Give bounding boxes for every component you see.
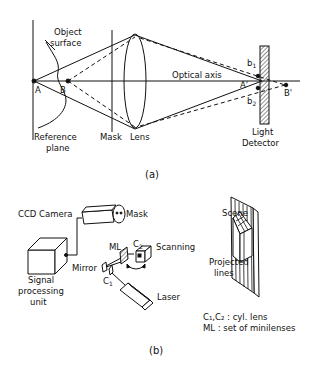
legend-minilenses: ML : set of minilenses (203, 323, 296, 333)
label-ml: ML (109, 242, 121, 252)
label-optical-axis: Optical axis (172, 70, 222, 80)
label-unit: unit (30, 297, 47, 307)
label-lines: lines (214, 268, 234, 278)
label-mask-b: Mask (126, 209, 148, 219)
label-ccd-camera: CCD Camera (18, 209, 72, 219)
label-surface: surface (50, 38, 81, 48)
label-b2: b2 (247, 96, 256, 107)
point-a (32, 79, 36, 83)
caption-b: (b) (149, 345, 163, 356)
label-point-b: B (60, 85, 66, 95)
point-b2 (256, 86, 260, 90)
point-b-prime (284, 83, 288, 87)
label-plane: plane (46, 143, 70, 153)
label-scene: Scene (222, 208, 248, 218)
label-scanning: Scanning (156, 242, 195, 252)
caption-a: (a) (145, 169, 159, 180)
camera-cable (66, 218, 82, 255)
label-object: Object (54, 27, 82, 37)
label-detector: Detector (242, 138, 280, 148)
label-point-a: A (35, 85, 41, 95)
optical-diagram: Object surface A B Reference plane Mask … (0, 0, 319, 376)
label-mask: Mask (100, 132, 122, 142)
label-laser: Laser (157, 292, 181, 302)
label-c2: C2 (133, 239, 143, 250)
label-projected: Projected (209, 257, 249, 267)
label-lens: Lens (130, 132, 150, 142)
label-point-a-prime: A' (240, 80, 248, 90)
legend-cyl-lens: C₁,C₂ : cyl. lens (203, 312, 268, 322)
minilenses (120, 247, 128, 264)
scanning-arrow (128, 266, 144, 269)
signal-processing-unit (28, 238, 67, 274)
label-light: Light (252, 127, 274, 137)
label-c1: C1 (103, 276, 113, 287)
label-processing: processing (18, 286, 64, 296)
laser (120, 283, 153, 310)
label-mirror: Mirror (72, 263, 98, 273)
point-b1 (256, 74, 260, 78)
label-point-b-prime: B' (284, 88, 292, 98)
label-reference: Reference (34, 132, 77, 142)
light-detector (260, 46, 269, 124)
label-b1: b1 (247, 58, 256, 69)
label-signal: Signal (28, 275, 54, 285)
ccd-camera (82, 205, 125, 224)
point-b (66, 79, 70, 83)
